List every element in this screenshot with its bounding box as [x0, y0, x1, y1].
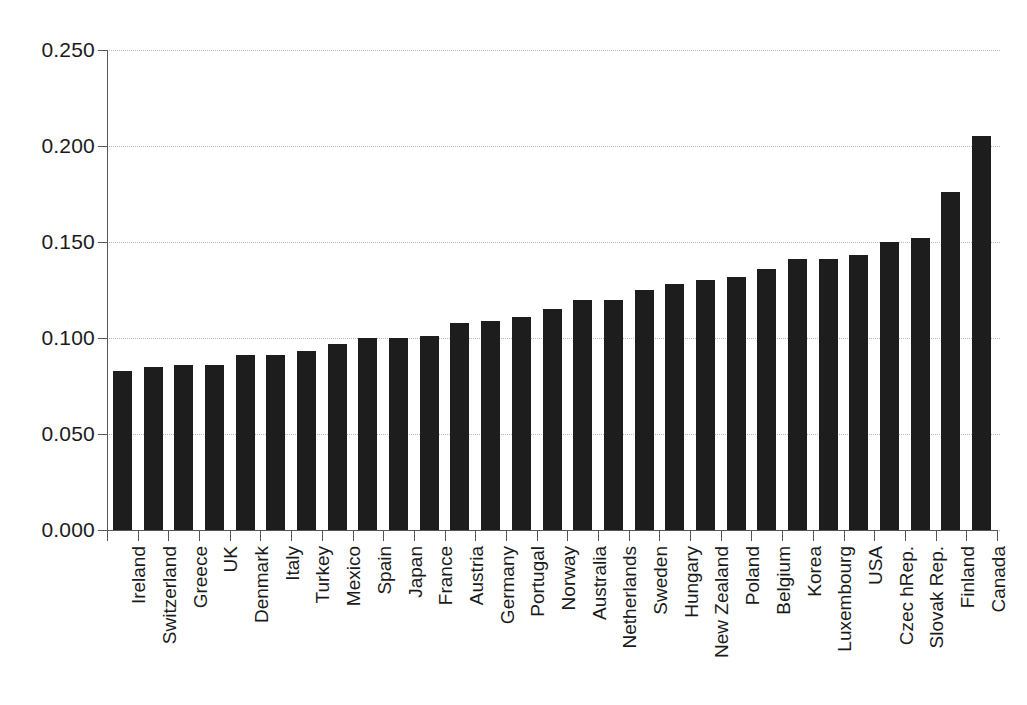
bar: [113, 371, 132, 530]
x-axis-tick: [751, 530, 752, 541]
x-axis-tick: [260, 530, 261, 541]
x-axis-category-label: Luxembourg: [835, 546, 854, 652]
x-axis-tick: [537, 530, 538, 541]
x-axis-category-label: Switzerland: [160, 546, 179, 644]
y-axis-line: [107, 50, 108, 531]
bar: [941, 192, 960, 530]
bar: [543, 309, 562, 530]
x-axis-category-label: Ireland: [129, 546, 148, 604]
bar: [205, 365, 224, 530]
bar: [573, 300, 592, 530]
x-axis-category-label: Spain: [375, 546, 394, 595]
x-axis-tick: [936, 530, 937, 541]
x-axis-tick: [322, 530, 323, 541]
y-axis-tick: [98, 50, 108, 51]
bar: [727, 277, 746, 530]
bar: [880, 242, 899, 530]
y-axis-tick-label: 0.200: [11, 135, 95, 156]
bar: [328, 344, 347, 530]
x-axis-tick: [199, 530, 200, 541]
bar: [420, 336, 439, 530]
bar: [297, 351, 316, 530]
bar: [696, 280, 715, 530]
x-axis-category-label: Japan: [406, 546, 425, 598]
x-axis-tick: [383, 530, 384, 541]
bar: [481, 321, 500, 530]
bar: [266, 355, 285, 530]
x-axis-category-label: Turkey: [313, 546, 332, 603]
x-axis-tick: [690, 530, 691, 541]
bar: [450, 323, 469, 530]
bar-chart: 0.2500.2000.1500.1000.0500.000 IrelandSw…: [0, 0, 1027, 705]
x-axis-category-label: Norway: [559, 546, 578, 610]
bar: [512, 317, 531, 530]
x-axis-tick: [291, 530, 292, 541]
x-axis-tick: [997, 530, 998, 541]
x-axis-tick: [629, 530, 630, 541]
x-axis-tick: [567, 530, 568, 541]
x-axis-tick: [475, 530, 476, 541]
gridline: [107, 146, 1000, 147]
x-axis-tick: [445, 530, 446, 541]
x-axis-category-label: Italy: [283, 546, 302, 581]
x-axis-category-label: Netherlands: [620, 546, 639, 648]
plot-area: [107, 50, 997, 530]
x-axis-category-label: Australia: [590, 546, 609, 620]
x-axis-tick: [813, 530, 814, 541]
x-axis-tick: [138, 530, 139, 541]
x-axis-category-label: USA: [866, 546, 885, 585]
bar: [972, 136, 991, 530]
y-axis-tick-label: 0.050: [11, 423, 95, 444]
bar: [757, 269, 776, 530]
bar: [849, 255, 868, 530]
x-axis-category-label: Poland: [743, 546, 762, 605]
y-axis-tick: [98, 434, 108, 435]
x-axis-category-label: Belgium: [774, 546, 793, 615]
x-axis-category-label: Greece: [191, 546, 210, 608]
bar: [174, 365, 193, 530]
x-axis-line: [107, 530, 997, 531]
x-axis-tick: [874, 530, 875, 541]
x-axis-tick: [598, 530, 599, 541]
gridline: [107, 242, 1000, 243]
x-axis-category-label: Mexico: [344, 546, 363, 606]
x-axis-category-label: France: [436, 546, 455, 605]
x-axis-tick: [107, 530, 108, 541]
bar: [635, 290, 654, 530]
bar: [665, 284, 684, 530]
x-axis-category-label: Sweden: [651, 546, 670, 615]
bar: [236, 355, 255, 530]
x-axis-category-label: Portugal: [528, 546, 547, 617]
bar: [389, 338, 408, 530]
y-axis-tick: [98, 242, 108, 243]
x-axis-tick: [844, 530, 845, 541]
x-axis-category-label: Hungary: [682, 546, 701, 618]
x-axis-category-label: Slovak Rep.: [927, 546, 946, 648]
bar: [604, 300, 623, 530]
y-axis-tick: [98, 146, 108, 147]
x-axis-category-label: UK: [221, 546, 240, 572]
x-axis-tick: [966, 530, 967, 541]
x-axis-tick: [353, 530, 354, 541]
bar: [788, 259, 807, 530]
x-axis-tick: [506, 530, 507, 541]
x-axis-tick: [721, 530, 722, 541]
bar: [358, 338, 377, 530]
x-axis-category-label: Canada: [989, 546, 1008, 613]
x-axis-category-label: Denmark: [252, 546, 271, 623]
bar: [144, 367, 163, 530]
y-axis-tick: [98, 338, 108, 339]
y-axis-tick-label: 0.000: [11, 519, 95, 540]
x-axis-category-label: Czec hRep.: [897, 546, 916, 645]
y-axis-tick-label: 0.150: [11, 231, 95, 252]
bar: [819, 259, 838, 530]
x-axis-category-label: Germany: [498, 546, 517, 624]
gridline: [107, 50, 1000, 51]
x-axis-tick: [659, 530, 660, 541]
x-axis-category-label: Austria: [467, 546, 486, 605]
y-axis-tick-label: 0.100: [11, 327, 95, 348]
x-axis-tick: [168, 530, 169, 541]
x-axis-category-label: New Zealand: [712, 546, 731, 658]
x-axis-tick: [414, 530, 415, 541]
x-axis-category-label: Korea: [805, 546, 824, 597]
